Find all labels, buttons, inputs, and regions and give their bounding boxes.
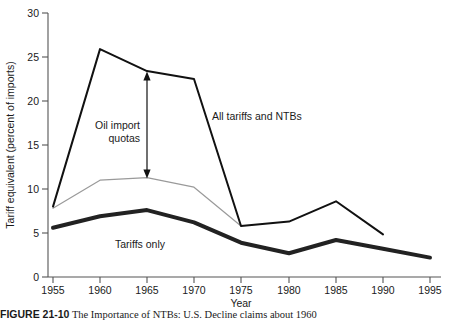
x-axis-ticks: [53, 277, 430, 283]
figure-caption: FIGURE 21-10 The Importance of NTBs: U.S…: [0, 308, 449, 320]
annotation-all-tariffs-and-ntbs: All tariffs and NTBs: [212, 110, 302, 122]
y-tick-label-30: 30: [27, 7, 39, 19]
y-tick-label-0: 0: [33, 271, 39, 283]
y-axis-title: Tariff equivalent (percent of imports): [4, 61, 16, 228]
y-tick-label-20: 20: [27, 95, 39, 107]
annotation-tariffs-only: Tariffs only: [115, 238, 166, 250]
x-tick-label-1970: 1970: [182, 284, 206, 296]
annotation-oil-import-quotas-line1: Oil import: [95, 119, 140, 131]
y-axis-ticks: [42, 13, 48, 277]
x-tick-label-1990: 1990: [371, 284, 395, 296]
series-line-gray-baseline: [53, 178, 241, 226]
figure-caption-text: The Importance of NTBs: U.S. Decline cla…: [72, 309, 317, 320]
annotation-oil-import-quotas-line2: quotas: [108, 132, 140, 144]
figure-container: 0 5 10 15 20 25 30 1955 1960 1965 1970 1…: [0, 0, 449, 320]
figure-caption-number: FIGURE 21-10: [0, 308, 69, 320]
x-tick-label-1960: 1960: [88, 284, 112, 296]
y-tick-label-10: 10: [27, 183, 39, 195]
y-tick-label-15: 15: [27, 139, 39, 151]
oil-import-quotas-arrow: [143, 72, 150, 179]
y-axis-tick-labels: 0 5 10 15 20 25 30: [27, 7, 39, 283]
y-tick-label-25: 25: [27, 51, 39, 63]
x-tick-label-1955: 1955: [41, 284, 65, 296]
x-tick-label-1965: 1965: [135, 284, 159, 296]
x-tick-label-1975: 1975: [229, 284, 253, 296]
x-axis-tick-labels: 1955 1960 1965 1970 1975 1980 1985 1990 …: [41, 284, 442, 296]
x-tick-label-1980: 1980: [277, 284, 301, 296]
chart-canvas: 0 5 10 15 20 25 30 1955 1960 1965 1970 1…: [0, 0, 449, 320]
x-tick-label-1985: 1985: [324, 284, 348, 296]
y-tick-label-5: 5: [33, 227, 39, 239]
x-tick-label-1995: 1995: [418, 284, 442, 296]
series-line-tariffs-only: [53, 210, 430, 258]
arrowhead-up-icon: [143, 72, 150, 81]
